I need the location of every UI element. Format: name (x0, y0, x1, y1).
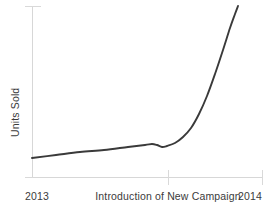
x-axis-label-2014: 2014 (238, 191, 262, 202)
chart-plot-area (0, 0, 275, 209)
x-axis-label-campaign: Introduction of New Campaign (95, 191, 240, 202)
x-axis-label-2013: 2013 (25, 191, 49, 202)
data-series-units-sold (32, 6, 238, 158)
line-chart: 2013 Introduction of New Campaign 2014 U… (0, 0, 275, 209)
y-axis-label: Units Sold (8, 17, 22, 137)
